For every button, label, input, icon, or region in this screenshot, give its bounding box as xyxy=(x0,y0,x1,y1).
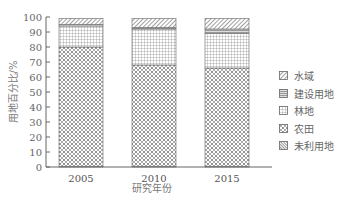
legend-label: 水域 xyxy=(294,68,314,83)
legend: 水域建设用地林地农田未利用地 xyxy=(279,67,334,155)
legend-label: 未利用地 xyxy=(294,138,334,153)
y-tick-label: 0 xyxy=(36,162,42,173)
y-tick-label: 60 xyxy=(29,72,42,83)
y-tick-label: 90 xyxy=(29,27,42,38)
bar-segment xyxy=(205,34,249,69)
bar-segment xyxy=(205,29,249,34)
y-tick-label: 70 xyxy=(29,57,42,68)
legend-swatch-icon xyxy=(279,89,288,98)
bar-segment xyxy=(205,68,249,166)
legend-swatch-icon xyxy=(279,71,288,80)
bar-segment xyxy=(132,65,176,166)
x-axis-title: 研究年份 xyxy=(132,182,172,194)
bar-2015 xyxy=(205,19,249,168)
y-axis-title: 用地百分比/% xyxy=(7,61,19,124)
legend-item: 林地 xyxy=(279,102,334,120)
bar-2005 xyxy=(59,19,103,168)
y-tick-label: 40 xyxy=(29,102,42,113)
legend-label: 林地 xyxy=(294,103,314,118)
y-tick-label: 80 xyxy=(29,42,42,53)
bar-segment xyxy=(59,19,103,25)
bar-segment xyxy=(132,29,176,65)
bar-segment xyxy=(59,26,103,47)
legend-swatch-icon xyxy=(279,124,288,133)
y-tick-label: 100 xyxy=(23,12,42,23)
legend-item: 农田 xyxy=(279,120,334,138)
legend-item: 建设用地 xyxy=(279,85,334,103)
y-tick-label: 50 xyxy=(29,87,42,98)
y-tick-label: 10 xyxy=(29,147,42,158)
legend-item: 未利用地 xyxy=(279,137,334,155)
legend-label: 建设用地 xyxy=(294,86,334,101)
bar-segment xyxy=(59,47,103,166)
bars xyxy=(59,19,249,168)
y-tick-label: 30 xyxy=(29,117,42,128)
legend-swatch-icon xyxy=(279,141,288,150)
legend-swatch-icon xyxy=(279,106,288,115)
y-axis: 0102030405060708090100 xyxy=(23,12,50,173)
bar-2010 xyxy=(132,19,176,168)
x-axis: 200520102015 xyxy=(46,167,272,184)
bar-segment xyxy=(132,19,176,28)
legend-item: 水域 xyxy=(279,67,334,85)
x-tick-label: 2005 xyxy=(68,173,93,184)
x-tick-label: 2015 xyxy=(214,173,239,184)
legend-label: 农田 xyxy=(294,121,314,136)
bar-segment xyxy=(205,19,249,30)
y-tick-label: 20 xyxy=(29,132,42,143)
